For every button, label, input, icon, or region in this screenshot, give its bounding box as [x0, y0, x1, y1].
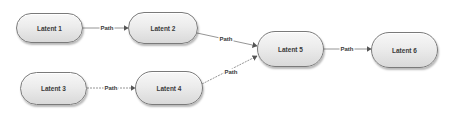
- node-latent-1[interactable]: Latent 1: [16, 13, 83, 43]
- edge-label-latent5-latent6: Path: [339, 46, 354, 53]
- node-latent-5[interactable]: Latent 5: [257, 31, 324, 67]
- node-latent-3[interactable]: Latent 3: [20, 72, 87, 105]
- node-label: Latent 3: [41, 85, 66, 92]
- edge-label-latent4-latent5: Path: [223, 69, 238, 76]
- edge-label-latent3-latent4: Path: [103, 85, 118, 92]
- node-latent-2[interactable]: Latent 2: [128, 12, 198, 44]
- node-label: Latent 1: [37, 25, 62, 32]
- node-latent-4[interactable]: Latent 4: [135, 71, 203, 105]
- node-latent-6[interactable]: Latent 6: [371, 32, 438, 68]
- diagram-canvas: Path Path Path Path Path Latent 1 Latent…: [0, 0, 456, 113]
- node-label: Latent 6: [392, 47, 417, 54]
- edge-label-latent1-latent2: Path: [99, 25, 114, 32]
- edge-label-latent2-latent5: Path: [218, 36, 233, 43]
- node-label: Latent 5: [278, 46, 303, 53]
- node-label: Latent 4: [157, 85, 182, 92]
- node-label: Latent 2: [151, 25, 176, 32]
